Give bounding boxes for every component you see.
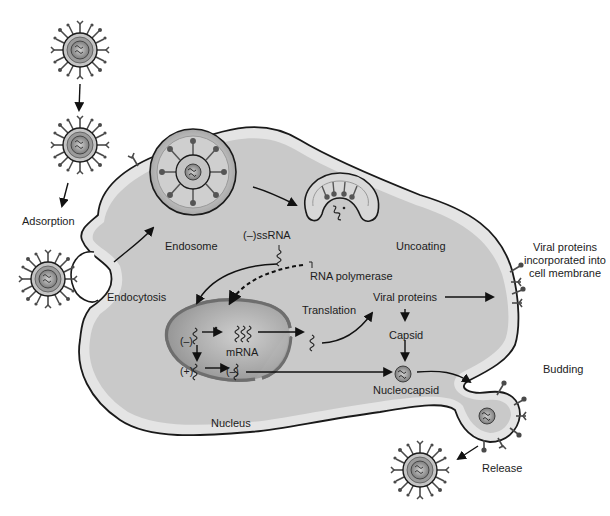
- label-pos-strand: (+): [180, 365, 193, 378]
- label-release: Release: [482, 462, 522, 475]
- label-nucleus: Nucleus: [211, 417, 251, 430]
- label-budding: Budding: [543, 363, 583, 376]
- label-endocytosis: Endocytosis: [107, 291, 166, 304]
- label-viral-proteins-membrane: Viral proteins incorporated into cell me…: [517, 241, 610, 280]
- label-neg-ssrna: (–)ssRNA: [243, 229, 291, 242]
- virion-adsorbing: [51, 116, 109, 174]
- nucleocapsid-particle: [395, 366, 411, 382]
- endocytosis-pocket: [19, 250, 98, 308]
- label-uncoating: Uncoating: [396, 240, 446, 253]
- label-endosome: Endosome: [165, 240, 218, 253]
- label-adsorption: Adsorption: [22, 215, 75, 228]
- label-translation: Translation: [302, 304, 356, 317]
- virion-approaching: [51, 21, 109, 79]
- label-neg-strand-copy: (–): [226, 365, 239, 378]
- virion-released: [391, 441, 449, 499]
- label-neg-strand: (–): [180, 335, 193, 348]
- label-rna-polymerase: RNA polymerase: [310, 270, 393, 283]
- label-capsid: Capsid: [389, 329, 423, 342]
- label-mrna: mRNA: [226, 346, 258, 359]
- budding-nucleocapsid: [479, 408, 495, 424]
- label-nucleocapsid: Nucleocapsid: [373, 384, 439, 397]
- label-viral-proteins: Viral proteins: [373, 291, 437, 304]
- endosome: [150, 129, 236, 215]
- host-cell: [79, 127, 520, 442]
